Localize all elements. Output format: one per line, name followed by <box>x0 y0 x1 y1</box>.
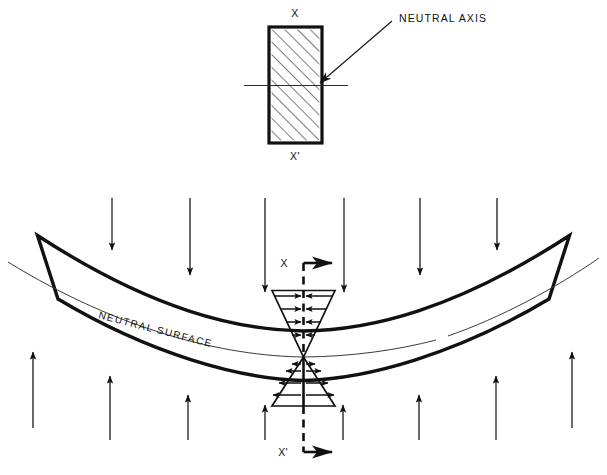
neutral-axis-callout: NEUTRAL AXIS <box>320 12 487 83</box>
diagram-root: X X' NEUTRAL AXIS NEUTRAL SURFACE <box>0 0 607 475</box>
cross-section-top-label: X <box>291 7 298 19</box>
beam-bending-figure: X X' NEUTRAL AXIS NEUTRAL SURFACE <box>0 0 607 475</box>
neutral-axis-callout-label: NEUTRAL AXIS <box>399 12 487 24</box>
neutral-axis-callout-leader <box>320 21 392 83</box>
section-axis-bottom-label: X' <box>278 446 288 458</box>
cross-section-group: X X' <box>244 7 348 162</box>
section-axis-top-label: X <box>281 257 288 269</box>
cross-section-bottom-label: X' <box>290 150 300 162</box>
